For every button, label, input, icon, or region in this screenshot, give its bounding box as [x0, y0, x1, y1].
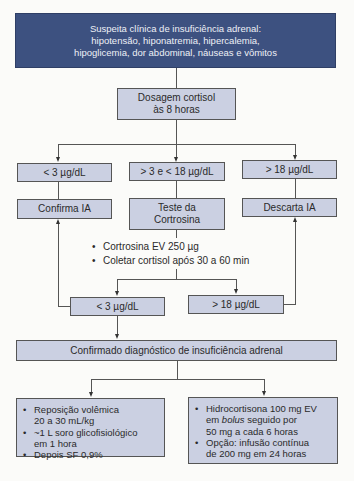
arrow-down-icon [56, 157, 60, 162]
connector [295, 179, 296, 198]
confirm-ia-box: Confirma IA [17, 199, 112, 219]
stimulation-step: Cortrosina EV 250 µg [92, 240, 249, 254]
arrow-up-icon [56, 219, 60, 224]
connector [177, 361, 178, 379]
connector [117, 315, 118, 335]
branch-low-box: < 3 µg/dL [17, 163, 112, 182]
cortisol-test-line: Dosagem cortisol [138, 92, 215, 104]
suspicion-line: hipoglicemia, dor abdominal, náuseas e v… [74, 47, 277, 59]
treatment-item: Opção: infusão contínuade 200 mg em 24 h… [195, 437, 333, 460]
connector [58, 306, 70, 307]
confirmed-diagnosis-box: Confirmado diagnóstico de insuficiência … [16, 340, 337, 361]
connector [176, 180, 177, 198]
cortrosina-test-line: Cortrosina [154, 214, 200, 226]
connector [58, 144, 296, 145]
connector [91, 379, 92, 393]
suspicion-line: hipotensão, hiponatremia, hipercalemia, [91, 35, 259, 47]
connector [176, 67, 177, 88]
arrow-down-icon [262, 391, 266, 396]
connector [176, 230, 177, 238]
fluid-treatment-box: Reposição volêmica20 a 30 mL/kg ~1 L sor… [16, 398, 165, 457]
connector [91, 379, 265, 380]
arrow-up-icon [293, 217, 297, 222]
connector [58, 181, 59, 199]
stimulation-step: Coletar cortisol após 30 a 60 min [92, 254, 249, 268]
connector [283, 304, 296, 305]
connector [176, 269, 177, 279]
arrow-down-icon [234, 289, 238, 294]
branch-high-box: > 18 µg/dL [242, 160, 337, 179]
cortisol-test-box: Dosagem cortisol às 8 horas [117, 88, 236, 120]
steroid-treatment-box: Hidrocortisona 100 mg EVem bolus seguido… [188, 397, 338, 464]
treatment-item: Hidrocortisona 100 mg EVem bolus seguido… [195, 403, 333, 437]
cortrosina-test-line: Teste da [158, 202, 196, 214]
connector [58, 224, 59, 306]
stim-low-box: < 3 µg/dL [70, 297, 165, 316]
treatment-item: Reposição volêmica20 a 30 mL/kg [23, 404, 160, 427]
treatment-item: Depois SF 0,9% [23, 449, 160, 460]
treatment-item: ~1 L soro glicofisiológicoem 1 hora [23, 427, 160, 450]
discard-ia-box: Descarta IA [242, 198, 337, 217]
suspicion-line: Suspeita clínica de insuficiência adrena… [90, 23, 261, 35]
connector [117, 279, 236, 280]
suspicion-box: Suspeita clínica de insuficiência adrena… [15, 13, 336, 68]
cortrosina-test-box: Teste da Cortrosina [129, 198, 225, 230]
stimulation-steps: Cortrosina EV 250 µg Coletar cortisol ap… [92, 240, 249, 268]
stim-high-box: > 18 µg/dL [188, 295, 284, 314]
arrow-down-icon [115, 291, 119, 296]
connector [295, 222, 296, 304]
cortisol-test-line: às 8 horas [153, 104, 200, 116]
connector [176, 120, 177, 144]
branch-mid-box: > 3 e < 18 µg/dL [129, 162, 225, 181]
arrow-down-icon [115, 334, 119, 339]
arrow-down-icon [89, 392, 93, 397]
